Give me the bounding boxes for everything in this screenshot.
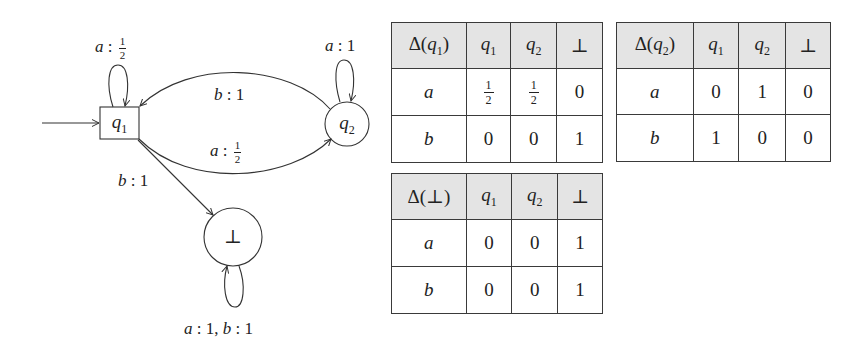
table-cell: 0 xyxy=(511,116,557,163)
edge-prob-fraction: 12 xyxy=(119,36,127,61)
table-header-row: Δ(q2) q1 q2 ⊥ xyxy=(617,23,831,69)
title-sym: q xyxy=(653,33,663,54)
table-cell: 0 xyxy=(512,220,558,267)
cell-fraction: 12 xyxy=(484,79,494,106)
frac-den: 2 xyxy=(486,93,492,106)
col-sub: 2 xyxy=(536,43,542,57)
row-symbol: b xyxy=(392,267,467,314)
table-title: Δ(q2) xyxy=(617,23,694,69)
automaton-diagram: q1 q2 ⊥ a : 12 a : 1 b : 1 a : 12 b : 1 … xyxy=(0,0,380,354)
table-row: b 1 0 0 xyxy=(617,115,831,162)
edge-prob: : 1, xyxy=(193,319,223,338)
frac-den: 2 xyxy=(235,153,241,165)
column-header: ⊥ xyxy=(557,23,603,69)
transition-table-q2: Δ(q2) q1 q2 ⊥ a 0 1 0 b 1 0 0 xyxy=(616,22,831,162)
edge-prob: 1 xyxy=(140,171,149,190)
table-cell: 0 xyxy=(466,267,512,314)
edge-prob: : 1 xyxy=(231,319,253,338)
edge-q2-self-loop xyxy=(336,60,354,102)
state-q1-symbol: q xyxy=(112,111,122,132)
column-header: q2 xyxy=(512,174,558,220)
col-sub: 2 xyxy=(537,194,543,208)
edge-symbol: b xyxy=(118,171,127,190)
table-cell: 0 xyxy=(512,267,558,314)
table-cell: 0 xyxy=(693,69,739,115)
table-row: a 0 0 1 xyxy=(392,220,603,267)
table-row: a 0 1 0 xyxy=(617,69,831,115)
frac-den: 2 xyxy=(120,49,126,61)
title-suffix: ) xyxy=(443,33,449,54)
edge-symbol: a xyxy=(184,319,193,338)
edge-symbol: b xyxy=(214,85,223,104)
table-cell: 12 xyxy=(466,69,511,116)
bottom-symbol-icon: ⊥ xyxy=(571,186,589,207)
title-sym: q xyxy=(427,33,437,54)
table-row: b 0 0 1 xyxy=(392,267,603,314)
edge-label-q2-to-q1: b : 1 xyxy=(214,86,244,103)
column-header: q2 xyxy=(739,23,786,69)
table-cell: 0 xyxy=(786,115,831,162)
edge-label-q2-self: a : 1 xyxy=(325,37,355,54)
frac-den: 2 xyxy=(531,93,537,106)
bottom-symbol-icon: ⊥ xyxy=(571,35,589,56)
transition-table-q1: Δ(q1) q1 q2 ⊥ a 12 12 0 b 0 0 1 xyxy=(391,22,603,163)
state-q2-label: q2 xyxy=(325,113,369,136)
edge-prob: 1 xyxy=(236,85,245,104)
cell-fraction: 12 xyxy=(529,79,539,106)
table-title: Δ(q1) xyxy=(392,23,467,69)
table-cell: 1 xyxy=(558,220,603,267)
table-cell: 0 xyxy=(466,220,512,267)
col-sub: 1 xyxy=(718,43,724,57)
table-row: b 0 0 1 xyxy=(392,116,603,163)
bottom-symbol-icon: ⊥ xyxy=(799,35,817,56)
edge-q1-to-bot xyxy=(138,140,213,215)
table-cell: 1 xyxy=(558,267,603,314)
column-header: ⊥ xyxy=(786,23,831,69)
table-cell: 1 xyxy=(739,69,786,115)
row-symbol: a xyxy=(617,69,694,115)
row-symbol: b xyxy=(617,115,694,162)
table-header-row: Δ(q1) q1 q2 ⊥ xyxy=(392,23,603,69)
frac-num: 1 xyxy=(119,36,127,49)
edge-label-q1-to-q2: a : 12 xyxy=(210,140,241,165)
table-cell: 12 xyxy=(511,69,557,116)
title-prefix: Δ( xyxy=(409,33,428,54)
frac-num: 1 xyxy=(529,79,539,93)
table-cell: 1 xyxy=(557,116,603,163)
edge-prob-fraction: 12 xyxy=(234,140,242,165)
table-cell: 1 xyxy=(693,115,739,162)
edge-sep: : xyxy=(219,141,232,160)
edge-label-q1-self: a : 12 xyxy=(95,36,126,61)
edge-symbol: a xyxy=(325,36,334,55)
edge-symbol: b xyxy=(223,319,232,338)
col-sym: q xyxy=(527,184,537,205)
frac-num: 1 xyxy=(234,140,242,153)
bottom-symbol-icon: ⊥ xyxy=(426,186,444,207)
edge-sep: : xyxy=(223,85,236,104)
edge-sep: : xyxy=(127,171,140,190)
col-sym: q xyxy=(708,33,718,54)
edge-prob: 1 xyxy=(347,36,356,55)
column-header: q1 xyxy=(466,174,512,220)
row-symbol: a xyxy=(392,220,467,267)
column-header: ⊥ xyxy=(558,174,603,220)
col-sym: q xyxy=(526,33,536,54)
col-sub: 1 xyxy=(491,194,497,208)
state-q1-label: q1 xyxy=(100,112,139,135)
edge-symbol: a xyxy=(210,141,219,160)
title-suffix: ) xyxy=(444,186,450,207)
edge-label-q1-to-bot: b : 1 xyxy=(118,172,148,189)
title-prefix: Δ( xyxy=(407,186,426,207)
edge-sep: : xyxy=(334,36,347,55)
automaton-edges xyxy=(0,0,380,354)
edge-q1-self-loop xyxy=(109,65,128,107)
row-symbol: a xyxy=(392,69,467,116)
edge-bot-self-loop xyxy=(225,266,244,307)
column-header: q1 xyxy=(466,23,511,69)
col-sym: q xyxy=(481,184,491,205)
column-header: q2 xyxy=(511,23,557,69)
table-cell: 0 xyxy=(739,115,786,162)
col-sym: q xyxy=(755,33,765,54)
bottom-symbol-icon: ⊥ xyxy=(224,226,242,247)
frac-num: 1 xyxy=(484,79,494,93)
